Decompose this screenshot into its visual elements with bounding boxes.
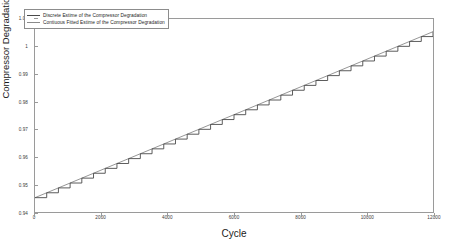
chart-legend: Discrete Estime of the Compressor Degrad… xyxy=(24,9,169,29)
y-tick-mark xyxy=(34,18,38,19)
x-tick-mark xyxy=(34,213,35,217)
y-tick-mark xyxy=(34,157,38,158)
series-lines xyxy=(35,19,433,212)
y-tick-mark xyxy=(34,46,38,47)
y-tick-label: 0.98 xyxy=(19,99,28,104)
y-tick-label: 1 xyxy=(25,43,28,48)
x-tick-mark xyxy=(234,213,235,217)
legend-item: Contiuous Fitted Estime of the Compresso… xyxy=(27,19,165,26)
y-tick-mark xyxy=(34,129,38,130)
legend-label-continuous: Contiuous Fitted Estime of the Compresso… xyxy=(43,20,165,25)
y-tick-label: 0.96 xyxy=(19,155,28,160)
y-tick-label: 0.94 xyxy=(19,211,28,216)
y-tick-mark xyxy=(34,102,38,103)
legend-swatch-discrete xyxy=(27,15,40,16)
legend-item: Discrete Estime of the Compressor Degrad… xyxy=(27,12,165,19)
plot-area xyxy=(34,18,434,213)
y-axis-tick-labels: 0.940.950.960.970.980.9911.01 xyxy=(0,18,32,213)
y-tick-label: 0.97 xyxy=(19,127,28,132)
x-axis-title: Cycle xyxy=(34,228,434,239)
x-tick-mark xyxy=(167,213,168,217)
y-tick-label: 0.95 xyxy=(19,183,28,188)
x-tick-mark xyxy=(101,213,102,217)
y-tick-mark xyxy=(34,74,38,75)
x-tick-mark xyxy=(434,213,435,217)
figure-canvas: Compressor Degradation 0.940.950.960.970… xyxy=(0,0,462,250)
x-tick-mark xyxy=(367,213,368,217)
y-tick-label: 0.99 xyxy=(19,71,28,76)
legend-label-discrete: Discrete Estime of the Compressor Degrad… xyxy=(43,13,147,18)
x-tick-mark xyxy=(301,213,302,217)
legend-swatch-continuous xyxy=(27,22,40,23)
y-tick-mark xyxy=(34,185,38,186)
